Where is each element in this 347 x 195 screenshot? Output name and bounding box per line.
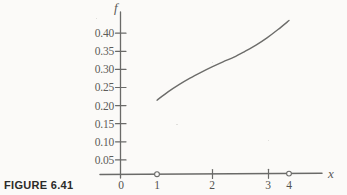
y-tick-label: 0.05 (78, 154, 114, 166)
x-tick-label: 0 (111, 179, 131, 191)
y-tick-label: 0.25 (78, 81, 114, 93)
y-tick-label: 0.10 (78, 136, 114, 148)
x-tick-label: 3 (258, 179, 278, 191)
figure-container: 0.40 0.35 0.30 0.25 0.20 0.15 0.10 0.05 … (0, 0, 347, 195)
y-axis-label: f (114, 0, 118, 16)
y-tick-label: 0.15 (78, 118, 114, 130)
plot-canvas (0, 0, 347, 195)
x-tick-label: 1 (147, 179, 167, 191)
y-tick-label-group: 0.40 0.35 0.30 0.25 0.20 0.15 0.10 0.05 (74, 0, 114, 195)
x-tick-marker (155, 172, 160, 177)
y-tick-label: 0.35 (78, 45, 114, 57)
y-tick-label: 0.40 (78, 27, 114, 39)
curve-series-f (157, 21, 289, 101)
x-tick-label: 4 (279, 179, 299, 191)
x-axis-label: x (328, 166, 334, 182)
y-tick-label: 0.20 (78, 100, 114, 112)
x-tick-label: 2 (202, 179, 222, 191)
x-tick-marker (287, 171, 292, 176)
y-tick-label: 0.30 (78, 63, 114, 75)
figure-caption: FIGURE 6.41 (4, 179, 73, 191)
